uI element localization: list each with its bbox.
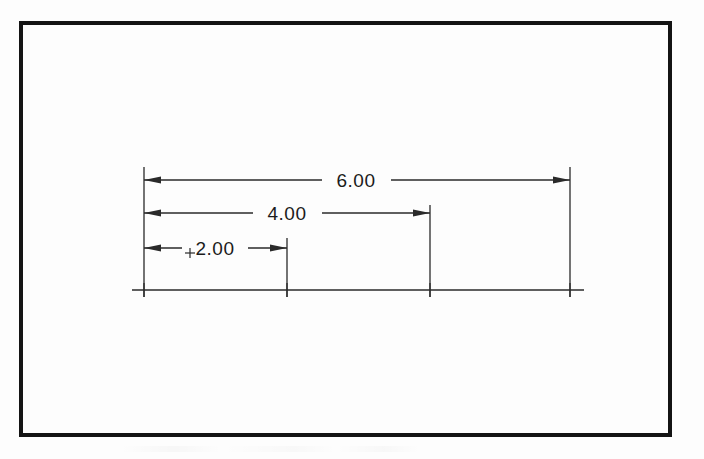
scanned-drawing-page: 2.004.006.00 [0,0,704,459]
dimension-6-00-arrowhead-right [553,176,570,183]
technical-drawing-canvas: 2.004.006.00 [0,0,704,459]
dimension-2-00-arrowhead-left [144,244,161,251]
dimension-2-00-label: 2.00 [196,238,235,259]
drawing-border [21,23,670,435]
scan-artifact-band [120,446,420,452]
dimension-6-00-label: 6.00 [337,170,376,191]
dimension-2-00-arrowhead-right [270,244,287,251]
dimension-6-00-arrowhead-left [144,176,161,183]
dimension-layer: 2.004.006.00 [132,167,584,297]
drawing-frame: 2.004.006.00 [0,0,704,459]
dimension-4-00-arrowhead-right [413,209,430,216]
dimension-4-00-label: 4.00 [268,203,307,224]
dimension-4-00-arrowhead-left [144,209,161,216]
